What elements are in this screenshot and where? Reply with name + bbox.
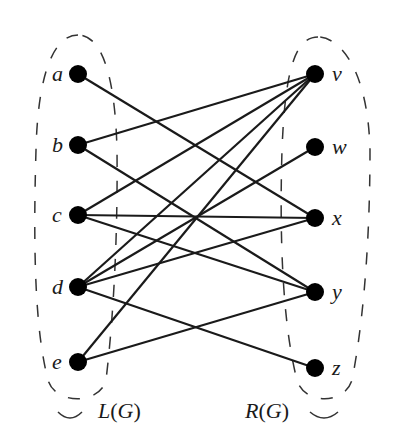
node-label-w: w — [332, 134, 347, 159]
right-set-brace-icon — [310, 412, 338, 418]
node-a — [69, 65, 87, 83]
right-set-label: R(G) — [244, 398, 289, 423]
node-b — [69, 136, 87, 154]
edges-group — [78, 74, 315, 368]
node-v — [306, 65, 324, 83]
node-y — [306, 283, 324, 301]
left-set-brace-icon — [58, 412, 82, 418]
left-set-label: L(G) — [97, 398, 141, 423]
node-label-y: y — [330, 279, 342, 304]
edge-d-x — [78, 218, 315, 287]
edge-e-y — [78, 292, 315, 362]
node-d — [69, 278, 87, 296]
edge-b-v — [78, 74, 315, 145]
node-label-a: a — [52, 61, 63, 86]
node-label-c: c — [52, 202, 62, 227]
node-label-x: x — [331, 205, 342, 230]
node-label-d: d — [52, 274, 64, 299]
node-label-z: z — [331, 355, 341, 380]
node-c — [69, 206, 87, 224]
node-x — [306, 209, 324, 227]
node-label-v: v — [332, 61, 342, 86]
node-z — [306, 359, 324, 377]
node-label-b: b — [52, 132, 63, 157]
bipartite-graph: abcdevwxyz L(G) R(G) — [0, 0, 396, 447]
node-e — [69, 353, 87, 371]
node-w — [306, 138, 324, 156]
node-label-e: e — [52, 349, 62, 374]
